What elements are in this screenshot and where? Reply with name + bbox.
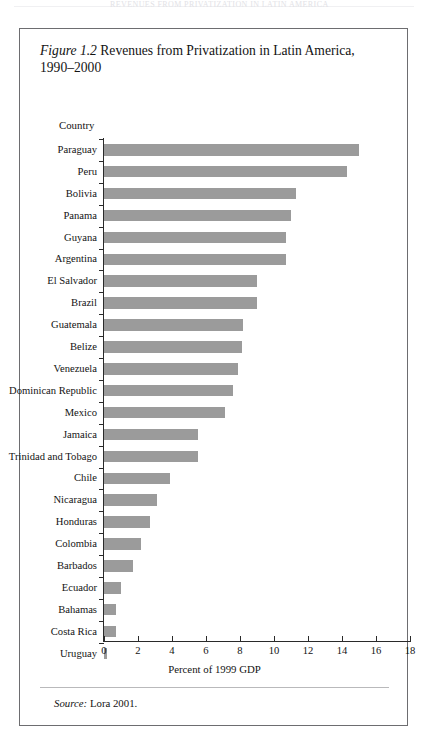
x-axis-tick-label: 10 xyxy=(262,645,286,656)
source-citation: Lora 2001. xyxy=(87,697,137,709)
bar xyxy=(104,188,296,200)
bar-category-label: Barbados xyxy=(1,560,97,572)
bar-row: Costa Rica xyxy=(20,621,409,643)
bar-row: Bolivia xyxy=(20,183,409,205)
bar-row: Colombia xyxy=(20,533,409,555)
x-axis-tick-label: 18 xyxy=(398,645,422,656)
x-axis-tick-label: 14 xyxy=(330,645,354,656)
bar-category-label: Colombia xyxy=(1,538,97,550)
bar-category-label: Ecuador xyxy=(1,582,97,594)
bar xyxy=(104,451,198,463)
bar-row: Nicaragua xyxy=(20,489,409,511)
x-axis-tick-label: 16 xyxy=(364,645,388,656)
x-axis-tick xyxy=(138,636,139,642)
bar-row: Venezuela xyxy=(20,358,409,380)
bar-category-label: Bolivia xyxy=(1,188,97,200)
y-axis-tick xyxy=(99,511,104,512)
x-axis-tick-label: 12 xyxy=(296,645,320,656)
x-axis-tick-label: 4 xyxy=(160,645,184,656)
bar-row: Brazil xyxy=(20,292,409,314)
bar-row: El Salvador xyxy=(20,270,409,292)
y-axis-tick xyxy=(99,249,104,250)
bar xyxy=(104,297,257,309)
bar xyxy=(104,341,242,353)
bar-row: Trinidad and Tobago xyxy=(20,446,409,468)
bar xyxy=(104,560,133,572)
bar xyxy=(104,407,225,419)
running-head: REVENUES FROM PRIVATIZATION IN LATIN AME… xyxy=(110,0,360,7)
source-note: Source: Lora 2001. xyxy=(54,697,137,709)
y-axis-tick xyxy=(99,555,104,556)
bar xyxy=(104,144,359,156)
bar-row: Chile xyxy=(20,468,409,490)
bar-category-label: Costa Rica xyxy=(1,626,97,638)
x-axis-tick-label: 6 xyxy=(194,645,218,656)
bar-row: Panama xyxy=(20,205,409,227)
x-axis-tick-label: 0 xyxy=(92,645,116,656)
y-axis-tick xyxy=(99,621,104,622)
bar xyxy=(104,494,157,506)
y-axis-tick xyxy=(99,336,104,337)
bar-row: Honduras xyxy=(20,511,409,533)
bar-row: Paraguay xyxy=(20,139,409,161)
bar-category-label: Peru xyxy=(1,166,97,178)
bar-row: Ecuador xyxy=(20,577,409,599)
bar-category-label: Mexico xyxy=(1,407,97,419)
y-axis-tick xyxy=(99,358,104,359)
bar xyxy=(104,626,116,638)
bar-category-label: Bahamas xyxy=(1,604,97,616)
x-axis-title: Percent of 1999 GDP xyxy=(20,663,409,675)
x-axis-tick xyxy=(342,636,343,642)
bar xyxy=(104,582,121,594)
y-axis-tick xyxy=(99,468,104,469)
bar-category-label: Belize xyxy=(1,341,97,353)
bar xyxy=(104,385,233,397)
bar-row: Belize xyxy=(20,336,409,358)
y-axis-tick xyxy=(99,183,104,184)
bar xyxy=(104,538,141,550)
bar-category-label: Trinidad and Tobago xyxy=(1,451,97,463)
bar xyxy=(104,166,347,178)
bar-row: Argentina xyxy=(20,249,409,271)
bar-chart-plot: ParaguayPeruBoliviaPanamaGuyanaArgentina… xyxy=(20,29,409,727)
x-axis-tick-label: 2 xyxy=(126,645,150,656)
source-divider xyxy=(40,687,389,688)
bar-category-label: Argentina xyxy=(1,254,97,266)
bar-row: Bahamas xyxy=(20,599,409,621)
bar-category-label: Brazil xyxy=(1,297,97,309)
y-axis-tick xyxy=(99,227,104,228)
bar-category-label: El Salvador xyxy=(1,276,97,288)
y-axis-tick xyxy=(99,577,104,578)
bar xyxy=(104,429,198,441)
y-axis-tick xyxy=(99,446,104,447)
bar xyxy=(104,516,150,528)
source-label: Source: xyxy=(54,697,87,709)
y-axis-tick xyxy=(99,292,104,293)
bar-row: Peru xyxy=(20,161,409,183)
y-axis-tick xyxy=(99,314,104,315)
bar-row: Mexico xyxy=(20,402,409,424)
x-axis-tick xyxy=(206,636,207,642)
bar-category-label: Uruguay xyxy=(1,648,97,660)
bar-category-label: Guyana xyxy=(1,232,97,244)
bar-category-label: Jamaica xyxy=(1,429,97,441)
x-axis-tick xyxy=(240,636,241,642)
y-axis-tick xyxy=(99,161,104,162)
bar-category-label: Nicaragua xyxy=(1,495,97,507)
bar xyxy=(104,210,291,222)
figure-frame: Figure 1.2 Revenues from Privatization i… xyxy=(19,28,408,726)
y-axis-tick xyxy=(99,599,104,600)
y-axis-tick xyxy=(99,139,104,140)
x-axis-tick xyxy=(172,636,173,642)
y-axis-tick xyxy=(99,533,104,534)
x-axis-tick xyxy=(104,636,105,642)
bar-category-label: Honduras xyxy=(1,516,97,528)
bar xyxy=(104,232,286,244)
bar xyxy=(104,275,257,287)
bar-row: Jamaica xyxy=(20,424,409,446)
bar-category-label: Panama xyxy=(1,210,97,222)
x-axis-tick xyxy=(274,636,275,642)
bar-row: Barbados xyxy=(20,555,409,577)
bar xyxy=(104,604,116,616)
x-axis-tick-label: 8 xyxy=(228,645,252,656)
